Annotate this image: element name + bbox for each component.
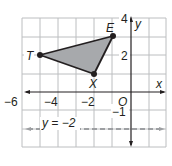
- x-tick-neg6: −6: [4, 95, 18, 109]
- line-equation-label: y = −2: [41, 116, 76, 130]
- y-tick-4: 4: [121, 12, 128, 26]
- y-tick-2: 2: [121, 49, 128, 63]
- vertex-e-label: E: [106, 21, 115, 35]
- x-tick-neg4: −4: [44, 95, 58, 109]
- x-axis-label: x: [155, 77, 163, 91]
- x-tick-neg2: −2: [81, 95, 95, 109]
- vertex-x-label: X: [88, 77, 98, 91]
- y-tick-neg1: −1: [112, 105, 126, 119]
- y-axis: [129, 16, 133, 147]
- coordinate-plane: T E X 4 y 2 x −6 −4 −2 O −1 y = −2: [0, 0, 172, 166]
- y-axis-label: y: [134, 17, 142, 31]
- vertex-t-point: [37, 52, 43, 58]
